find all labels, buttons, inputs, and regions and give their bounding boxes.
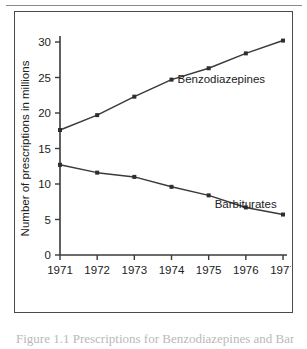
x-axis-tick-label: 1976 — [233, 264, 259, 276]
data-point-marker — [207, 193, 211, 197]
y-axis-tick-label: 10 — [38, 178, 51, 190]
data-point-marker — [95, 113, 99, 117]
series-line-benzodiazepines — [60, 41, 283, 130]
data-point-marker — [58, 128, 62, 132]
data-point-marker — [95, 171, 99, 175]
x-axis-tick-label: 1974 — [159, 264, 185, 276]
data-point-marker — [170, 185, 174, 189]
x-axis-tick-label: 1972 — [84, 264, 110, 276]
data-point-marker — [281, 39, 285, 43]
data-point-marker — [132, 175, 136, 179]
x-axis-tick-label: 1975 — [196, 264, 222, 276]
series-annotation-label: Benzodiazepines — [178, 73, 266, 85]
top-divider-rule — [6, 5, 302, 6]
x-axis-tick-label: 1973 — [122, 264, 148, 276]
figure-caption-cutoff: Figure 1.1 Prescriptions for Benzodiazep… — [16, 332, 294, 346]
y-axis-tick-label: 15 — [38, 143, 51, 155]
y-axis-tick-label: 5 — [45, 214, 51, 226]
x-axis-tick-label: 1977 — [270, 264, 291, 276]
x-axis-tick-label: 1971 — [47, 264, 73, 276]
line-chart: 0510152025301971197219731974197519761977… — [15, 12, 291, 311]
series-annotation-label: Barbiturates — [215, 198, 277, 210]
y-axis-tick-label: 20 — [38, 107, 51, 119]
data-point-marker — [58, 163, 62, 167]
data-point-marker — [244, 51, 248, 55]
y-axis-tick-label: 30 — [38, 36, 51, 48]
figure-frame: 0510152025301971197219731974197519761977… — [14, 11, 293, 313]
y-axis-tick-label: 0 — [45, 249, 51, 261]
data-point-marker — [170, 78, 174, 82]
data-point-marker — [281, 213, 285, 217]
y-axis-tick-label: 25 — [38, 72, 51, 84]
data-point-marker — [132, 95, 136, 99]
data-point-marker — [207, 66, 211, 70]
y-axis-title: Number of prescriptions in millions — [19, 60, 31, 236]
